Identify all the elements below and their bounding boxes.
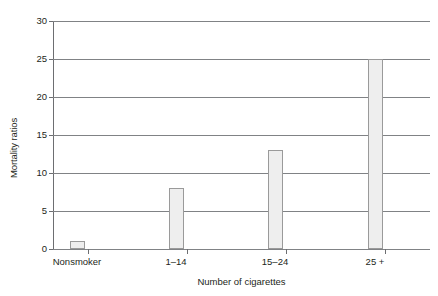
y-tick-mark-5: [49, 211, 53, 212]
bar-nonsmoker[interactable]: [70, 241, 85, 249]
y-tick-label-30: 30: [36, 16, 47, 26]
y-tick-label-25: 25: [36, 54, 47, 64]
bar-25-[interactable]: [368, 59, 383, 249]
x-tick-label-1-14: 1–14: [165, 257, 186, 267]
y-tick-label-0: 0: [42, 244, 47, 254]
plot-area: 051015202530: [53, 21, 430, 249]
x-tick-mark-3: [385, 249, 386, 254]
y-tick-mark-20: [49, 97, 53, 98]
gridline-30: [53, 21, 430, 22]
y-axis-title: Mortality ratios: [4, 0, 22, 296]
x-tick-label-nonsmoker: Nonsmoker: [53, 257, 102, 267]
bar-1-14[interactable]: [169, 188, 184, 249]
y-tick-mark-0: [49, 249, 53, 250]
y-tick-label-10: 10: [36, 168, 47, 178]
bar-chart-figure: Mortality ratios 051015202530 Nonsmoker1…: [0, 0, 438, 296]
y-tick-label-20: 20: [36, 92, 47, 102]
bar-15-24[interactable]: [268, 150, 283, 249]
x-axis-title: Number of cigarettes: [53, 277, 430, 287]
x-tick-label-15-24: 15–24: [262, 257, 288, 267]
y-tick-label-5: 5: [42, 206, 47, 216]
x-tick-mark-0: [88, 249, 89, 254]
y-tick-mark-30: [49, 21, 53, 22]
y-tick-mark-15: [49, 135, 53, 136]
x-tick-mark-1: [187, 249, 188, 254]
y-tick-mark-25: [49, 59, 53, 60]
y-tick-mark-10: [49, 173, 53, 174]
gridline-0: [53, 249, 430, 250]
x-tick-mark-2: [286, 249, 287, 254]
y-tick-label-15: 15: [36, 130, 47, 140]
x-tick-label-25-: 25 +: [366, 257, 385, 267]
y-axis-title-container: Mortality ratios: [4, 0, 22, 296]
